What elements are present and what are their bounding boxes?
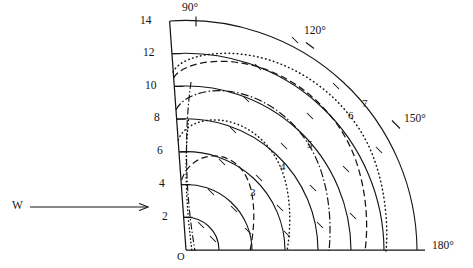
polar-diagram-canvas: [0, 0, 473, 268]
radial-tick-label-4: 4: [159, 178, 165, 190]
trajectory-curve-1: [187, 82, 196, 251]
trajectory-curve-7: [173, 53, 387, 251]
origin-label: O: [177, 252, 185, 263]
trajectory-curve-6: [174, 61, 367, 251]
radial-tick-label-2: 2: [162, 211, 168, 223]
radial-tick-label-8: 8: [154, 112, 160, 124]
radial-tick-label-12: 12: [143, 47, 155, 59]
angle-label-120: 120°: [304, 25, 326, 37]
curve-label-3: 3: [250, 187, 256, 198]
curve-label-5: 5: [307, 139, 313, 150]
curve-label-6: 6: [348, 110, 354, 121]
radial-tick-label-10: 10: [145, 80, 157, 92]
radial-tick-label-6: 6: [157, 145, 163, 157]
angle-label-90: 90°: [182, 2, 198, 14]
arc-flow-ticks: [198, 37, 382, 242]
radial-tick-label-14: 14: [140, 15, 152, 27]
curve-label-4: 4: [280, 161, 286, 172]
freestream-label-w: W: [12, 200, 23, 212]
angle-label-150: 150°: [404, 113, 426, 125]
curve-label-7: 7: [362, 98, 368, 109]
radial-axis: [170, 21, 186, 250]
reference-arcs: [170, 20, 417, 250]
angle-label-180: 180°: [432, 240, 454, 252]
